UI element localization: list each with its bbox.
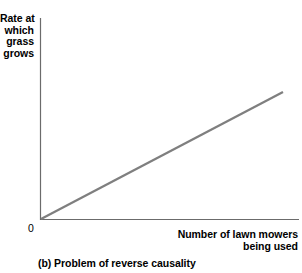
x-axis-label-line-1: Number of lawn mowers	[160, 228, 298, 240]
x-axis-label-line-2: being used	[160, 240, 298, 252]
figure-panel: Rate at which grass grows 0 Number of la…	[0, 0, 302, 273]
origin-tick-label: 0	[28, 222, 34, 234]
figure-caption: (b) Problem of reverse causality	[38, 257, 196, 269]
x-axis-label: Number of lawn mowers being used	[160, 228, 298, 252]
data-line-positive-slope	[41, 92, 283, 219]
